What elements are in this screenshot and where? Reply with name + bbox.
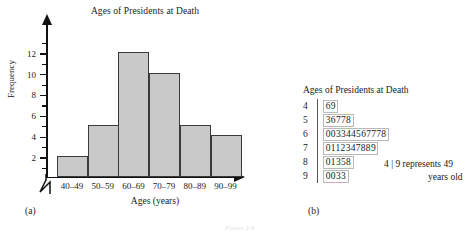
stemleaf-row: 6 003344567778 <box>303 127 389 141</box>
y-tick-label-10: 10 <box>18 70 36 80</box>
y-tick-label-2: 2 <box>18 153 36 163</box>
stem-divider <box>317 99 318 113</box>
stem-value: 7 <box>303 143 317 153</box>
stemleaf-title: Ages of Presidents at Death <box>303 85 409 95</box>
x-tick-label-90-99: 90–99 <box>203 181 249 191</box>
leaf-values: 69 <box>323 100 338 113</box>
panel-label-b: (b) <box>308 206 319 216</box>
stem-value: 6 <box>303 129 317 139</box>
stem-value: 8 <box>303 157 317 167</box>
stemleaf-row: 5 36778 <box>303 113 389 127</box>
y-tick-5 <box>42 126 47 127</box>
y-tick-7 <box>42 105 47 106</box>
histogram-title: Ages of Presidents at Death <box>60 6 230 16</box>
stemleaf-row: 9 0033 <box>303 169 389 183</box>
stem-divider <box>317 141 318 155</box>
leaf-values: 0112347889 <box>323 142 378 155</box>
bar-70-79 <box>149 73 180 177</box>
stem-divider <box>317 127 318 141</box>
panel-label-a: (a) <box>25 206 36 216</box>
stem-divider <box>317 113 318 127</box>
stem-divider <box>317 169 318 183</box>
y-axis-line <box>46 22 48 178</box>
histogram-panel: Ages of Presidents at Death Frequency 2 … <box>0 0 250 233</box>
stem-divider <box>317 155 318 169</box>
figure-container: Ages of Presidents at Death Frequency 2 … <box>0 0 475 233</box>
bar-40-49 <box>57 156 88 177</box>
stemleaf-rows: 4 69 5 36778 6 003344567778 7 0112347889 <box>303 99 389 183</box>
y-tick-10 <box>40 74 47 75</box>
y-tick-11 <box>42 64 47 65</box>
stemleaf-panel: Ages of Presidents at Death 4 69 5 36778… <box>250 0 475 233</box>
y-tick-label-8: 8 <box>18 90 36 100</box>
stem-value: 5 <box>303 115 317 125</box>
stemleaf-row: 4 69 <box>303 99 389 113</box>
stem-value: 4 <box>303 101 317 111</box>
bar-90-99 <box>211 135 242 177</box>
y-tick-9 <box>42 85 47 86</box>
bar-80-89 <box>180 125 211 177</box>
bar-60-69 <box>118 52 149 177</box>
y-tick-1 <box>42 168 47 169</box>
y-tick-label-6: 6 <box>18 111 36 121</box>
y-tick-6 <box>40 116 47 117</box>
y-axis-label: Frequency <box>6 48 16 110</box>
bar-50-59 <box>88 125 119 177</box>
y-axis-arrow-icon <box>42 14 52 25</box>
y-tick-2 <box>40 157 47 158</box>
y-tick-12 <box>40 53 47 54</box>
figure-caption: Figure 2-6 <box>155 224 325 230</box>
y-tick-4 <box>40 137 47 138</box>
stemleaf-key-line-1: 4 | 9 represents 49 <box>384 159 453 169</box>
stem-value: 9 <box>303 171 317 181</box>
y-tick-8 <box>40 95 47 96</box>
y-tick-label-12: 12 <box>18 49 36 59</box>
leaf-values: 01358 <box>323 156 353 169</box>
y-tick-13 <box>42 43 47 44</box>
x-axis-label: Ages (years) <box>80 196 230 206</box>
leaf-values: 003344567778 <box>323 128 389 141</box>
leaf-values: 0033 <box>323 170 348 183</box>
y-tick-3 <box>42 147 47 148</box>
y-tick-label-4: 4 <box>18 132 36 142</box>
stemleaf-row: 8 01358 <box>303 155 389 169</box>
stemleaf-row: 7 0112347889 <box>303 141 389 155</box>
leaf-values: 36778 <box>323 114 353 127</box>
stemleaf-key-line-2: years old <box>428 172 463 182</box>
